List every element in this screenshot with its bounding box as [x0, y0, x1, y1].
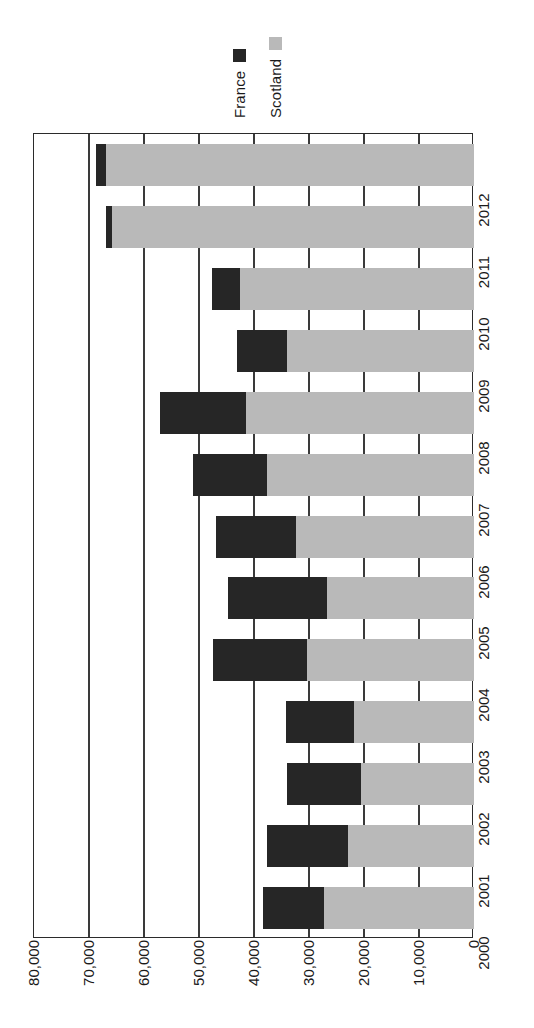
bar-segment-scotland-2007 [267, 454, 474, 496]
bar-segment-france-2003 [286, 701, 354, 743]
value-tick-label: 40,000 [245, 940, 262, 1026]
bar-segment-scotland-2005 [327, 577, 474, 619]
legend-swatch-scotland [269, 37, 282, 50]
bar-segment-france-2002 [287, 763, 361, 805]
bar-segment-scotland-2009 [287, 330, 474, 372]
bar-segment-france-2008 [160, 392, 246, 434]
legend-label-scotland: Scotland [268, 59, 283, 118]
bar-segment-france-2009 [237, 330, 287, 372]
bar-segment-france-2001 [267, 825, 348, 867]
bar-segment-scotland-2002 [361, 763, 474, 805]
category-tick-label: 2006 [476, 559, 492, 605]
bar-segment-scotland-2004 [307, 639, 474, 681]
bar-row-2009 [34, 330, 472, 372]
bar-segment-france-2011 [106, 206, 112, 248]
bar-row-2002 [34, 763, 472, 805]
value-axis: 80,00070,00060,00050,00040,00030,00020,0… [0, 940, 534, 1028]
bar-row-2007 [34, 454, 472, 496]
bar-row-2006 [34, 516, 472, 558]
category-tick-label: 2008 [476, 435, 492, 481]
bar-segment-scotland-2008 [246, 392, 474, 434]
bar-segment-france-2007 [193, 454, 267, 496]
value-tick-label: 50,000 [190, 940, 207, 1026]
category-tick-label: 2002 [476, 806, 492, 852]
category-axis: 2012201120102009200820072006200520042003… [476, 133, 532, 938]
bar-row-2005 [34, 577, 472, 619]
value-tick-label: 30,000 [300, 940, 317, 1026]
category-tick-label: 2001 [476, 868, 492, 914]
bar-row-2010 [34, 268, 472, 310]
bar-segment-scotland-2003 [354, 701, 474, 743]
bar-segment-france-2005 [228, 577, 327, 619]
value-tick-label: 20,000 [355, 940, 372, 1026]
bar-row-2008 [34, 392, 472, 434]
bar-segment-france-2010 [212, 268, 240, 310]
legend-swatch-france [233, 49, 246, 62]
bar-segment-scotland-2006 [296, 516, 474, 558]
legend-item-france: France [228, 18, 250, 118]
legend-label-france: France [232, 71, 247, 118]
category-tick-label: 2011 [476, 249, 492, 295]
category-tick-label: 2004 [476, 682, 492, 728]
bar-row-2012 [34, 144, 472, 186]
bar-row-2000 [34, 887, 472, 929]
bar-segment-scotland-2012 [106, 144, 474, 186]
bar-segment-scotland-2010 [240, 268, 474, 310]
value-tick-label: 60,000 [135, 940, 152, 1026]
bar-segment-france-2006 [216, 516, 296, 558]
chart-plot-area [33, 133, 473, 938]
category-tick-label: 2000 [476, 930, 492, 976]
bar-row-2011 [34, 206, 472, 248]
category-tick-label: 2009 [476, 373, 492, 419]
value-tick-label: 10,000 [410, 940, 427, 1026]
bar-row-2004 [34, 639, 472, 681]
category-tick-label: 2010 [476, 311, 492, 357]
chart-legend: France Scotland [206, 18, 316, 118]
bar-segment-scotland-2001 [348, 825, 474, 867]
category-tick-label: 2007 [476, 497, 492, 543]
bar-segment-scotland-2011 [112, 206, 474, 248]
bar-segment-france-2004 [213, 639, 307, 681]
category-tick-label: 2003 [476, 744, 492, 790]
category-tick-label: 2012 [476, 187, 492, 233]
bar-segment-france-2000 [263, 887, 324, 929]
category-tick-label: 2005 [476, 620, 492, 666]
bar-segment-france-2012 [96, 144, 106, 186]
value-tick-label: 80,000 [25, 940, 42, 1026]
bar-row-2001 [34, 825, 472, 867]
value-tick-label: 70,000 [80, 940, 97, 1026]
bar-segment-scotland-2000 [324, 887, 474, 929]
legend-item-scotland: Scotland [264, 18, 286, 118]
bar-row-2003 [34, 701, 472, 743]
